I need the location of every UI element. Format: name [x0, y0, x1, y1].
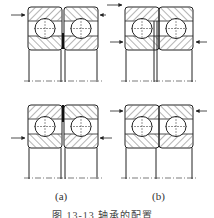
bearing-pair-b-top [107, 5, 207, 82]
figure-caption: 图 13-13 轴承的配置 [52, 207, 153, 218]
label-b: (b) [152, 190, 165, 202]
bearing-pair-a-bottom [11, 105, 112, 179]
label-a: (a) [55, 190, 67, 202]
bearing-diagram [0, 0, 214, 218]
bearing-pair-b-bottom [110, 105, 207, 179]
bearing-pair-a-top [11, 7, 106, 82]
